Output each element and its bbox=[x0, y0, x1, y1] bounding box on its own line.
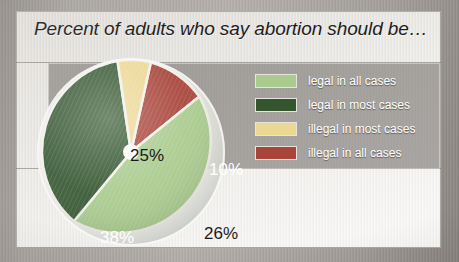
legend-swatch-illegal-in-most-cases bbox=[255, 122, 297, 136]
pie-chart: 25% 10% 38% 26% bbox=[36, 57, 226, 247]
page-title: Percent of adults who say abortion shoul… bbox=[34, 18, 434, 40]
legend-label-illegal-in-most-cases: illegal in most cases bbox=[308, 122, 415, 136]
legend-label-legal-in-all-cases: legal in all cases bbox=[308, 74, 396, 88]
legend-item-legal-in-most-cases[interactable]: legal in most cases bbox=[255, 93, 435, 117]
legend-item-illegal-in-all-cases[interactable]: illegal in all cases bbox=[255, 141, 435, 165]
pie-label-legal-in-most-cases: 38% bbox=[100, 228, 134, 248]
pie-label-illegal-in-all-cases: 10% bbox=[209, 160, 243, 180]
legend-item-illegal-in-most-cases[interactable]: illegal in most cases bbox=[255, 117, 435, 141]
legend-item-legal-in-all-cases[interactable]: legal in all cases bbox=[255, 69, 435, 93]
pie-label-illegal-in-most-cases: 25% bbox=[130, 146, 164, 166]
legend-swatch-illegal-in-all-cases bbox=[255, 146, 297, 160]
chart-legend: legal in all cases legal in most cases i… bbox=[255, 69, 435, 165]
legend-label-illegal-in-all-cases: illegal in all cases bbox=[308, 146, 401, 160]
legend-label-legal-in-most-cases: legal in most cases bbox=[308, 98, 410, 112]
pie-label-legal-in-all-cases: 26% bbox=[204, 224, 238, 244]
legend-swatch-legal-in-all-cases bbox=[255, 74, 297, 88]
legend-swatch-legal-in-most-cases bbox=[255, 98, 297, 112]
slide-canvas: Percent of adults who say abortion shoul… bbox=[0, 0, 459, 262]
